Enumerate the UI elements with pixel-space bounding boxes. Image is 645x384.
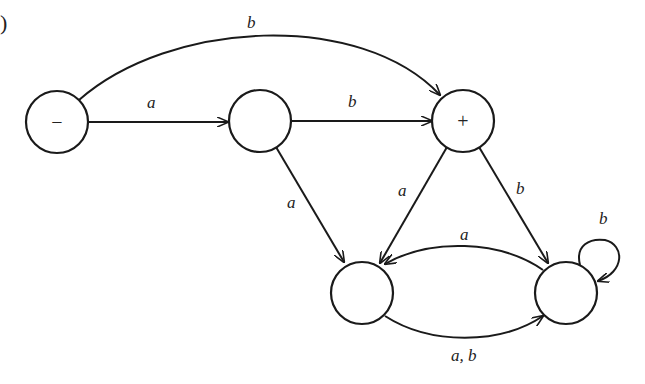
edge-label: b xyxy=(247,13,256,32)
edge-final-to-n3-a xyxy=(380,147,447,263)
state-start: − xyxy=(26,91,88,153)
edge-n4-to-n3-a xyxy=(385,246,543,270)
edge-label: a xyxy=(460,225,469,244)
figure-corner-mark: ) xyxy=(0,10,7,35)
edge-label: b xyxy=(348,92,357,111)
state-final: + xyxy=(432,90,494,152)
state-n3 xyxy=(331,262,393,324)
state-n4 xyxy=(535,262,597,324)
automaton-diagram: ) b a b a a b a a, b b − + xyxy=(0,0,645,384)
edge-label: a, b xyxy=(451,346,477,365)
edge-label: a xyxy=(287,193,296,212)
final-marker: + xyxy=(457,110,468,132)
edge-label: a xyxy=(398,181,407,200)
start-marker: − xyxy=(51,111,62,133)
edge-label: a xyxy=(147,93,156,112)
edge-label: b xyxy=(516,179,525,198)
edge-n3-to-n4-ab xyxy=(385,316,543,338)
edge-final-to-n4-b xyxy=(479,147,548,263)
state-n1 xyxy=(229,90,291,152)
edge-label: b xyxy=(599,209,608,228)
